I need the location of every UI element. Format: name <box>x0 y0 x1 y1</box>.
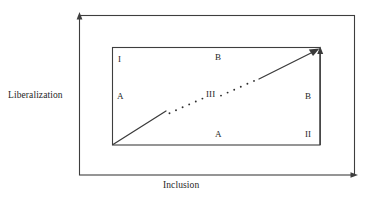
zone-label-path-a-left: A <box>117 92 124 101</box>
diagonal-arrowhead-icon <box>309 49 320 57</box>
x-axis-label: Inclusion <box>163 181 199 191</box>
diagram-canvas: Liberalization Inclusion I B A III B A I… <box>0 0 369 200</box>
zone-label-quadrant-i: I <box>118 55 121 64</box>
diagonal-path-segment-solid-lower <box>113 111 166 145</box>
zone-label-quadrant-ii: II <box>305 130 311 139</box>
diagonal-path-segment-solid-upper <box>259 51 315 79</box>
zone-label-path-iii: III <box>206 90 215 99</box>
zone-label-path-a-bottom: A <box>215 130 222 139</box>
zone-label-path-b-top: B <box>215 53 221 62</box>
zone-label-path-b-right: B <box>305 92 311 101</box>
y-axis-label: Liberalization <box>8 91 63 101</box>
